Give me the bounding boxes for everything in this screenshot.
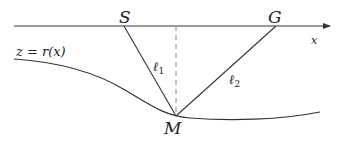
- ray-l2: [176, 26, 276, 116]
- ray-l1: [124, 26, 176, 116]
- label-l1: ℓ1: [153, 60, 164, 76]
- label-axis-x: x: [311, 35, 317, 46]
- surface-curve: [14, 59, 320, 120]
- diagram-canvas: S G x z = r(x) ℓ1 ℓ2 M: [0, 0, 344, 144]
- label-surface: z = r(x): [16, 45, 66, 58]
- label-l1-sub: 1: [158, 66, 164, 76]
- label-midpoint-m: M: [164, 120, 181, 137]
- label-l2: ℓ2: [229, 73, 240, 89]
- label-source-s: S: [119, 9, 131, 26]
- label-receiver-g: G: [268, 9, 282, 26]
- label-l2-sub: 2: [234, 79, 240, 89]
